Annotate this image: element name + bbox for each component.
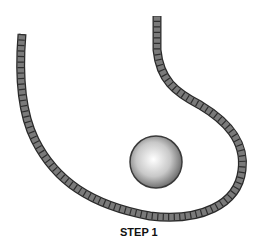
rope-diagram [0, 0, 260, 247]
step-label: STEP 1 [0, 226, 260, 238]
ball [130, 136, 182, 188]
rope [21, 16, 243, 217]
